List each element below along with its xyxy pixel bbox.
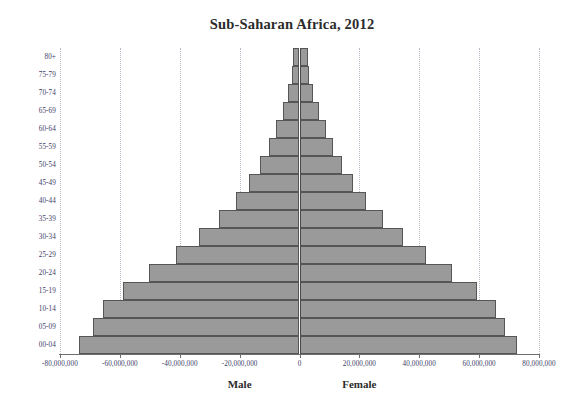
bar-male-20-24 [149, 264, 300, 282]
y-axis-label-20-24: 20-24 [4, 269, 56, 277]
bar-female-75-79 [300, 66, 310, 84]
bar-female-70-74 [300, 84, 314, 102]
bar-female-20-24 [300, 264, 453, 282]
x-axis-label-8: 80,000,000 [494, 360, 584, 368]
y-axis-label-10-14: 10-14 [4, 305, 56, 313]
bar-female-10-14 [300, 300, 497, 318]
y-axis-label-75-79: 75-79 [4, 71, 56, 79]
bar-female-80+ [300, 48, 309, 66]
caption-male: Male [180, 378, 300, 390]
bar-male-40-44 [236, 192, 300, 210]
bar-female-45-49 [300, 174, 354, 192]
bar-female-15-19 [300, 282, 477, 300]
bar-male-45-49 [249, 174, 300, 192]
caption-female: Female [299, 378, 419, 390]
bar-female-40-44 [300, 192, 367, 210]
y-axis-label-30-34: 30-34 [4, 233, 56, 241]
y-axis-label-15-19: 15-19 [4, 287, 56, 295]
y-axis-label-00-04: 00-04 [4, 341, 56, 349]
y-axis-label-25-29: 25-29 [4, 251, 56, 259]
zero-axis-line [300, 48, 301, 354]
y-axis-label-65-69: 65-69 [4, 107, 56, 115]
y-axis-label-80+: 80+ [4, 53, 56, 61]
x-axis-tick-0 [60, 354, 61, 358]
plot-area [60, 48, 539, 354]
bar-female-60-64 [300, 120, 326, 138]
y-axis-age-groups: 80+75-7970-7465-6960-6455-5950-5445-4940… [0, 48, 56, 354]
chart-title: Sub-Saharan Africa, 2012 [0, 16, 584, 33]
bar-female-30-34 [300, 228, 403, 246]
x-axis-tick-6 [419, 354, 420, 358]
x-axis-tick-1 [120, 354, 121, 358]
bar-male-50-54 [260, 156, 300, 174]
bar-male-15-19 [123, 282, 299, 300]
y-axis-label-35-39: 35-39 [4, 215, 56, 223]
bar-male-75-79 [292, 66, 300, 84]
x-axis-tick-2 [180, 354, 181, 358]
bar-female-25-29 [300, 246, 427, 264]
population-pyramid-chart: Sub-Saharan Africa, 2012 80+75-7970-7465… [0, 0, 584, 408]
x-axis-tick-7 [479, 354, 480, 358]
y-axis-label-45-49: 45-49 [4, 179, 56, 187]
x-axis-tick-4 [300, 354, 301, 358]
y-axis-label-55-59: 55-59 [4, 143, 56, 151]
bar-female-55-59 [300, 138, 334, 156]
x-axis-tick-8 [539, 354, 540, 358]
bar-male-00-04 [79, 336, 299, 354]
bar-female-35-39 [300, 210, 383, 228]
x-axis-tick-5 [359, 354, 360, 358]
y-axis-label-60-64: 60-64 [4, 125, 56, 133]
bar-male-05-09 [93, 318, 300, 336]
bar-male-55-59 [269, 138, 300, 156]
bar-male-35-39 [219, 210, 299, 228]
y-axis-label-50-54: 50-54 [4, 161, 56, 169]
bar-female-05-09 [300, 318, 506, 336]
bar-male-65-69 [283, 102, 300, 120]
bar-female-65-69 [300, 102, 319, 120]
y-axis-label-40-44: 40-44 [4, 197, 56, 205]
x-axis-tick-3 [240, 354, 241, 358]
y-axis-label-70-74: 70-74 [4, 89, 56, 97]
bar-male-10-14 [103, 300, 300, 318]
gridline-8 [539, 48, 540, 354]
bar-female-00-04 [300, 336, 517, 354]
bar-male-70-74 [288, 84, 300, 102]
bar-female-50-54 [300, 156, 343, 174]
bar-male-60-64 [276, 120, 299, 138]
bar-male-80+ [293, 48, 300, 66]
y-axis-label-05-09: 05-09 [4, 323, 56, 331]
bar-male-30-34 [199, 228, 299, 246]
bar-male-25-29 [176, 246, 300, 264]
